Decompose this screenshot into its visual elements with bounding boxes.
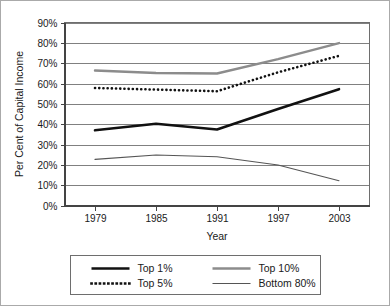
y-tick-label-90: 90% — [37, 18, 57, 29]
series-line-top-10 — [95, 43, 339, 74]
legend-label-top-5: Top 5% — [138, 277, 173, 289]
y-tick-label-10: 10% — [37, 180, 57, 191]
plot-area-border — [65, 23, 370, 206]
x-tick-label-1997: 1997 — [267, 213, 290, 224]
y-axis-tick-labels: 0%10%20%30%40%50%60%70%80%90% — [37, 18, 57, 212]
series-line-bottom-80 — [95, 155, 339, 181]
x-tick-label-1991: 1991 — [206, 213, 229, 224]
legend-label-bottom-80: Bottom 80% — [259, 277, 316, 289]
y-tick-label-80: 80% — [37, 38, 57, 49]
x-tick-label-2003: 2003 — [328, 213, 351, 224]
y-tick-label-60: 60% — [37, 79, 57, 90]
chart-figure: 0%10%20%30%40%50%60%70%80%90% 1979198519… — [0, 0, 390, 306]
chart-legend: Top 1%Top 10%Top 5%Bottom 80% — [71, 256, 321, 295]
y-tick-label-0: 0% — [43, 201, 58, 212]
legend-label-top-1: Top 1% — [138, 262, 173, 274]
y-axis-title: Per Cent of Capital Income — [13, 51, 25, 177]
y-tick-label-30: 30% — [37, 140, 57, 151]
x-axis-tick-marks — [65, 23, 370, 211]
line-chart: 0%10%20%30%40%50%60%70%80%90% 1979198519… — [1, 1, 390, 306]
x-axis-tick-labels: 19791985199119972003 — [84, 213, 351, 224]
x-axis-title: Year — [206, 230, 228, 242]
x-tick-label-1979: 1979 — [84, 213, 107, 224]
y-tick-label-50: 50% — [37, 99, 57, 110]
x-tick-label-1985: 1985 — [145, 213, 168, 224]
legend-label-top-10: Top 10% — [259, 262, 300, 274]
y-tick-label-70: 70% — [37, 58, 57, 69]
y-tick-label-20: 20% — [37, 160, 57, 171]
y-tick-label-40: 40% — [37, 119, 57, 130]
